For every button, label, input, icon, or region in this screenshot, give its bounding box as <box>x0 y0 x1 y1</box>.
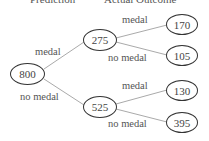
edge-label-275-medal: medal <box>122 14 148 25</box>
edge-275-to-170 <box>116 25 167 38</box>
node-root: 800 <box>10 63 45 85</box>
edge-label-525-no-medal: no medal <box>108 118 147 129</box>
node-130: 130 <box>166 80 198 101</box>
node-170: 170 <box>166 14 198 35</box>
node-275: 275 <box>83 29 117 51</box>
edge-525-to-130 <box>116 90 167 104</box>
node-105: 105 <box>166 45 198 66</box>
node-525: 525 <box>83 96 117 118</box>
edge-label-275-no-medal: no medal <box>108 52 147 63</box>
edge-label-root-no-medal: no medal <box>20 91 59 102</box>
edge-label-root-medal: medal <box>35 46 61 57</box>
node-395: 395 <box>166 112 198 133</box>
edge-label-525-medal: medal <box>122 80 148 91</box>
